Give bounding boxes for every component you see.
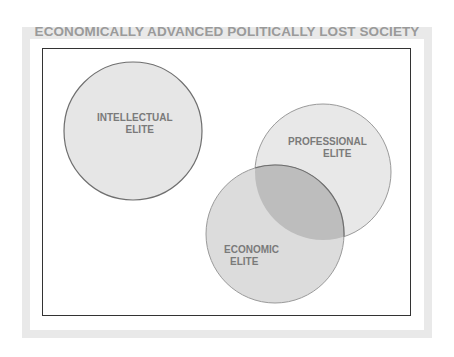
professional-elite-label: PROFESSIONAL ELITE [288,136,367,160]
label-line1: INTELLECTUAL [97,112,173,124]
label-line2: ELITE [224,256,279,268]
label-line1: ECONOMIC [224,244,279,256]
venn-diagram [0,0,454,357]
label-line1: PROFESSIONAL [288,136,367,148]
label-line2: ELITE [97,124,173,136]
intellectual-elite-label: INTELLECTUAL ELITE [97,112,173,136]
label-line2: ELITE [288,148,367,160]
economic-elite-label: ECONOMIC ELITE [224,244,279,268]
